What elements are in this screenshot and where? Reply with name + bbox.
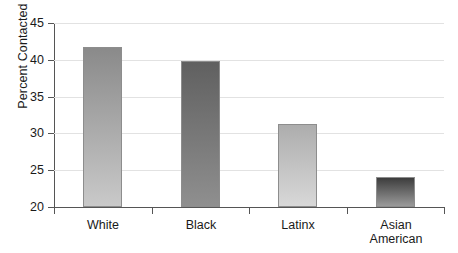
y-tick-label-20: 20 (20, 201, 44, 213)
x-axis-cap-right (444, 207, 445, 214)
y-tick-25 (48, 170, 54, 171)
bar-white (83, 47, 122, 207)
x-axis-cap-left (54, 207, 55, 214)
bar-black (181, 61, 220, 207)
y-tick-label-35: 35 (20, 91, 44, 103)
gridline-45 (54, 23, 444, 24)
y-tick-label-40: 40 (20, 54, 44, 66)
bar-chart: Percent Contacted 202530354045 WhiteBlac… (0, 0, 458, 253)
y-tick-label-30: 30 (20, 127, 44, 139)
y-tick-30 (48, 133, 54, 134)
y-tick-35 (48, 97, 54, 98)
y-tick-40 (48, 60, 54, 61)
bar-asian-american (376, 177, 415, 207)
category-label-black: Black (152, 218, 250, 232)
y-tick-45 (48, 23, 54, 24)
bar-latinx (278, 124, 317, 207)
y-tick-label-25: 25 (20, 164, 44, 176)
x-tick-separator-2 (249, 207, 250, 214)
category-label-asian-american: Asian American (347, 218, 445, 246)
x-tick-separator-3 (347, 207, 348, 214)
x-tick-separator-1 (152, 207, 153, 214)
category-label-latinx: Latinx (249, 218, 347, 232)
y-tick-label-45: 45 (20, 17, 44, 29)
category-label-white: White (54, 218, 152, 232)
